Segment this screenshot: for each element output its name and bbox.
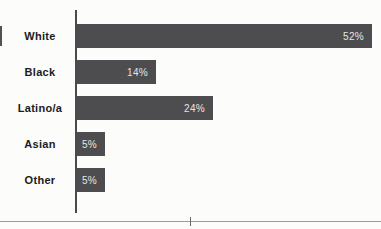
category-label: Asian	[0, 138, 75, 150]
category-label: White	[0, 30, 75, 42]
bar: 52%	[77, 24, 372, 48]
category-label: Black	[0, 66, 75, 78]
bar: 14%	[77, 60, 156, 84]
bar: 5%	[77, 168, 105, 192]
bottom-rule	[0, 221, 381, 222]
chart-page: White 52% Black 14% Latino/a 24% Asian 5…	[0, 0, 381, 229]
bar: 24%	[77, 96, 213, 120]
bar-track: 5%	[77, 132, 375, 156]
bar-row: Asian 5%	[0, 132, 375, 156]
bar-row: Black 14%	[0, 60, 375, 84]
page-edge-artifact	[0, 26, 2, 46]
bar-row: Other 5%	[0, 168, 375, 192]
value-label: 24%	[184, 103, 205, 114]
value-label: 14%	[127, 67, 148, 78]
category-label: Latino/a	[0, 102, 75, 114]
center-tick-mark	[190, 217, 191, 226]
value-label: 52%	[343, 31, 364, 42]
bar-row: White 52%	[0, 24, 375, 48]
value-label: 5%	[82, 139, 97, 150]
bar-track: 52%	[77, 24, 375, 48]
bar-row: Latino/a 24%	[0, 96, 375, 120]
bar-track: 5%	[77, 168, 375, 192]
category-label: Other	[0, 174, 75, 186]
bar-track: 14%	[77, 60, 375, 84]
bar-track: 24%	[77, 96, 375, 120]
bar-chart: White 52% Black 14% Latino/a 24% Asian 5…	[0, 24, 375, 204]
value-label: 5%	[82, 175, 97, 186]
bar: 5%	[77, 132, 105, 156]
